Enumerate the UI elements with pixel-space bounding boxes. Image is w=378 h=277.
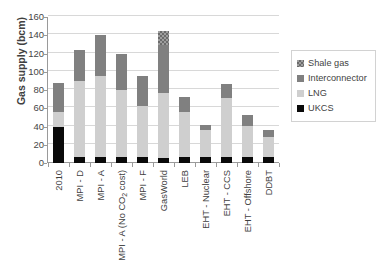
interconnector-swatch: [297, 75, 304, 82]
bar-segment-lng: [179, 112, 190, 157]
bar-segment-ukcs: [221, 157, 232, 163]
bar-segment-ukcs: [179, 157, 190, 163]
bar-segment-lng: [116, 90, 127, 157]
x-tick-mark: [90, 163, 91, 167]
bar-segment-lng: [200, 130, 211, 156]
bar-segment-ukcs: [137, 157, 148, 163]
y-tick-label: 20: [4, 140, 44, 150]
gridline: [48, 15, 279, 16]
bar-group[interactable]: [74, 17, 85, 163]
bar-segment-ukcs: [116, 157, 127, 163]
bar-segment-lng: [242, 126, 253, 157]
bar-segment-ukcs: [53, 127, 64, 164]
x-tick-mark: [279, 163, 280, 167]
bar-segment-ukcs: [74, 157, 85, 163]
bar-segment-interconnector: [158, 45, 169, 92]
x-tick-mark: [48, 163, 49, 167]
bar-segment-shale-gas: [158, 31, 169, 46]
y-tick-mark: [43, 17, 47, 18]
bar-stack: [137, 76, 148, 163]
x-tick-label: GasWorld: [160, 170, 169, 211]
x-tick-mark: [132, 163, 133, 167]
y-tick-label: 100: [4, 67, 44, 77]
bar-segment-interconnector: [95, 35, 106, 76]
bar-stack: [53, 83, 64, 163]
bar-stack: [263, 130, 274, 163]
bar-segment-interconnector: [116, 54, 127, 90]
x-tick-mark: [195, 163, 196, 167]
bar-group[interactable]: [137, 17, 148, 163]
y-tick-mark: [43, 108, 47, 109]
legend-item[interactable]: Interconnector: [295, 71, 372, 86]
legend-label: Interconnector: [308, 74, 367, 83]
y-tick-mark: [43, 35, 47, 36]
bar-group[interactable]: [116, 17, 127, 163]
x-tick-label: LEB: [181, 170, 190, 188]
chart-legend: Shale gasInterconnectorLNGUKCS: [291, 50, 376, 122]
ukcs-swatch: [297, 105, 304, 112]
bar-stack: [116, 54, 127, 163]
bar-segment-lng: [95, 76, 106, 156]
x-tick-label: MPI - A: [97, 170, 106, 200]
legend-item[interactable]: UKCS: [295, 101, 372, 116]
x-tick-label: MPI - F: [139, 170, 148, 200]
y-tick-mark: [43, 54, 47, 55]
x-tick-mark: [216, 163, 217, 167]
bar-stack: [74, 50, 85, 163]
y-tick-label: 80: [4, 85, 44, 95]
lng-swatch: [297, 90, 304, 97]
legend-item[interactable]: LNG: [295, 86, 372, 101]
bar-segment-lng: [158, 93, 169, 158]
legend-label: LNG: [308, 89, 327, 98]
y-tick-label: 160: [4, 12, 44, 22]
y-tick-mark: [43, 90, 47, 91]
x-tick-mark: [258, 163, 259, 167]
bar-group[interactable]: [263, 17, 274, 163]
bar-group[interactable]: [95, 17, 106, 163]
y-tick-mark: [43, 127, 47, 128]
y-tick-label: 0: [4, 158, 44, 168]
bar-stack: [95, 35, 106, 163]
y-tick-mark: [43, 72, 47, 73]
bar-segment-interconnector: [53, 83, 64, 112]
bar-group[interactable]: [200, 17, 211, 163]
x-tick-label: 2010: [55, 170, 64, 191]
x-tick-label: EHT - CCS: [223, 170, 232, 216]
bar-stack: [158, 31, 169, 163]
y-tick-label: 120: [4, 49, 44, 59]
bar-group[interactable]: [242, 17, 253, 163]
bar-segment-ukcs: [200, 157, 211, 163]
x-tick-label: MPI - D: [76, 170, 85, 202]
bar-group[interactable]: [158, 17, 169, 163]
legend-label: UKCS: [308, 104, 334, 113]
y-tick-label: 40: [4, 122, 44, 132]
bar-segment-interconnector: [74, 50, 85, 81]
bar-segment-lng: [221, 98, 232, 156]
legend-label: Shale gas: [308, 59, 349, 68]
shale-gas-swatch: [297, 60, 304, 67]
bar-group[interactable]: [179, 17, 190, 163]
bar-group[interactable]: [53, 17, 64, 163]
y-tick-mark: [43, 163, 47, 164]
bars-layer: [48, 17, 279, 163]
y-tick-mark: [43, 145, 47, 146]
bar-segment-interconnector: [221, 84, 232, 99]
bar-segment-lng: [263, 137, 274, 156]
bar-segment-interconnector: [179, 97, 190, 112]
bar-segment-lng: [53, 112, 64, 127]
bar-segment-ukcs: [95, 157, 106, 163]
bar-group[interactable]: [221, 17, 232, 163]
bar-segment-ukcs: [158, 158, 169, 163]
stacked-bar-chart: Gas supply (bcm) 020406080100120140160 2…: [0, 0, 378, 277]
bar-segment-interconnector: [263, 130, 274, 137]
legend-item[interactable]: Shale gas: [295, 56, 372, 71]
bar-stack: [242, 115, 253, 163]
bar-stack: [179, 97, 190, 163]
x-tick-mark: [153, 163, 154, 167]
bar-segment-interconnector: [242, 115, 253, 126]
x-tick-label: DDBT: [265, 170, 274, 195]
x-tick-mark: [69, 163, 70, 167]
y-tick-label: 140: [4, 31, 44, 41]
x-tick-label: MPI - A (No CO2 cost): [118, 170, 127, 261]
bar-segment-ukcs: [263, 157, 274, 163]
